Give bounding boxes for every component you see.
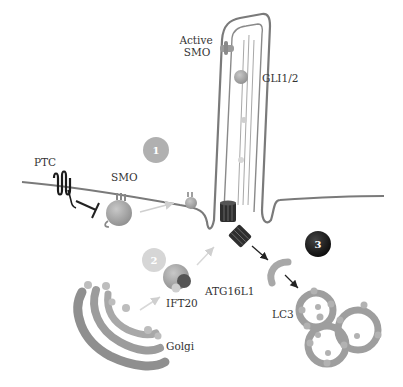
arrow-smo-to-cilium [140, 203, 174, 212]
ift-particle [238, 157, 244, 163]
label-active-smo-line1: Active [178, 34, 212, 46]
diagram-svg: Active SMO GLI1/2 1 PTC SMO [0, 0, 403, 387]
diagram-canvas: Active SMO GLI1/2 1 PTC SMO [0, 0, 403, 387]
gli-protein [234, 70, 248, 84]
arrow-vesicle-to-cilium [197, 247, 214, 265]
label-atg16l1: ATG16L1 [204, 285, 254, 297]
basal-body-centriole [220, 201, 236, 223]
step-1-badge: 1 [143, 137, 169, 163]
ift-particle [241, 117, 247, 123]
label-active-smo-line2: SMO [184, 46, 211, 58]
phagophore [271, 262, 288, 283]
label-ift20: IFT20 [166, 297, 198, 309]
smo-vesicle [105, 193, 132, 227]
golgi-apparatus [78, 281, 165, 366]
daughter-centriole [228, 224, 252, 248]
microtubule [248, 40, 254, 205]
step-2-number: 2 [151, 255, 158, 266]
step-1-number: 1 [153, 145, 160, 156]
arrow-phagophore-to-autophagosome [285, 275, 298, 288]
ptc-receptor [54, 172, 76, 209]
label-ptc: PTC [34, 156, 56, 168]
autophagosome-cluster [299, 288, 382, 367]
label-smo: SMO [111, 171, 138, 183]
inhibition-symbol [76, 201, 99, 218]
step-3-badge: 3 [305, 231, 331, 257]
label-gli: GLI1/2 [262, 72, 298, 84]
arrow-golgi-to-vesicle [140, 297, 160, 310]
arrow-centriole-to-phagophore [252, 246, 268, 260]
atg16l1-ift20-vesicle [163, 264, 191, 293]
smo-at-cilium-base [185, 192, 197, 209]
step-2-badge: 2 [142, 248, 166, 272]
label-golgi: Golgi [166, 340, 195, 352]
label-lc3: LC3 [272, 308, 294, 320]
step-3-number: 3 [315, 239, 322, 250]
